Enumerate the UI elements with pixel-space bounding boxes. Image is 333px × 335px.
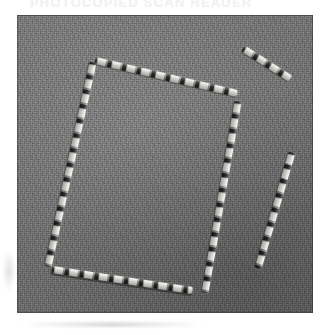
header-text-band: PHOTOCOPIED SCAN HEADER [30, 0, 292, 9]
scan-smudge-left [2, 250, 16, 292]
photograph [17, 15, 313, 313]
photo-border [17, 15, 313, 313]
header-title: PHOTOCOPIED SCAN HEADER [30, 0, 292, 9]
scan-smudge-bottom [22, 322, 202, 327]
scanned-page: PHOTOCOPIED SCAN HEADER [0, 0, 333, 335]
